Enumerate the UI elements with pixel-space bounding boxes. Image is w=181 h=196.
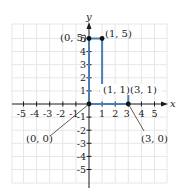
x-tick-label: -5 — [17, 108, 26, 119]
point-label-3-0: (3, 0) — [141, 133, 168, 144]
y-tick-label: 4 — [80, 46, 86, 57]
vertices — [87, 36, 131, 106]
point-label-1-1: (1, 1) — [103, 84, 130, 95]
y-axis-label: y — [85, 11, 92, 22]
x-tick-label: 2 — [112, 108, 118, 119]
coordinate-plane: x y -5 -4 -3 -2 -1 1 2 3 4 5 5 4 3 2 1 -… — [0, 0, 181, 196]
x-tick-label: 3 — [124, 108, 130, 119]
vertex-0-5 — [87, 36, 92, 41]
y-tick-label: -5 — [77, 164, 86, 175]
point-label-0-5: (0, 5) — [60, 32, 87, 43]
point-label-3-1: (3, 1) — [130, 84, 157, 95]
point-label-0-0: (0, 0) — [26, 133, 53, 144]
y-tick-label: 3 — [80, 59, 86, 70]
y-tick-label: -2 — [77, 125, 86, 136]
x-tick-label: 1 — [99, 108, 105, 119]
x-tick-label: 4 — [138, 108, 144, 119]
x-axis-label: x — [170, 98, 176, 109]
point-label-1-5: (1, 5) — [105, 28, 132, 39]
y-tick-label: 1 — [80, 85, 86, 96]
x-tick-label: 5 — [151, 108, 157, 119]
x-tick-label: -2 — [56, 108, 65, 119]
y-tick-label: -3 — [77, 138, 86, 149]
vertex-1-5 — [100, 36, 105, 41]
x-tick-label: -4 — [30, 108, 39, 119]
y-tick-label: -4 — [77, 151, 86, 162]
y-axis-arrow-icon — [87, 22, 92, 29]
y-tick-label: 2 — [80, 72, 86, 83]
x-tick-label: -3 — [43, 108, 52, 119]
